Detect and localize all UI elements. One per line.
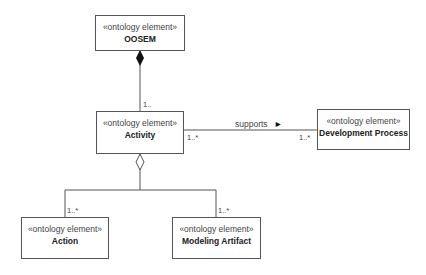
stereotype-label: «ontology element»: [96, 22, 184, 33]
modeling-artifact-element[interactable]: «ontology element» Modeling Artifact: [172, 217, 261, 259]
oosem-element[interactable]: «ontology element» OOSEM: [95, 15, 185, 51]
stereotype-label: «ontology element»: [318, 116, 409, 127]
development-process-element[interactable]: «ontology element» Development Process: [317, 109, 410, 150]
element-name: OOSEM: [96, 33, 184, 45]
supports-target-multiplicity: 1..*: [299, 133, 310, 142]
element-name: Action: [22, 235, 108, 247]
artifact-multiplicity: 1..*: [218, 206, 229, 215]
stereotype-label: «ontology element»: [97, 118, 183, 129]
stereotype-label: «ontology element»: [173, 224, 260, 235]
activity-element[interactable]: «ontology element» Activity: [96, 111, 184, 154]
element-name: Development Process: [318, 127, 409, 139]
supports-source-multiplicity: 1..*: [187, 133, 198, 142]
association-name: supports: [235, 119, 268, 129]
aggregation-diamond-icon: [136, 154, 144, 170]
supports-label: supports ►: [235, 119, 282, 129]
stereotype-label: «ontology element»: [22, 224, 108, 235]
composition-multiplicity: 1..: [143, 100, 151, 109]
action-multiplicity: 1..*: [67, 206, 78, 215]
action-element[interactable]: «ontology element» Action: [21, 217, 109, 259]
element-name: Modeling Artifact: [173, 235, 260, 247]
element-name: Activity: [97, 129, 183, 141]
direction-arrow-icon: ►: [274, 119, 282, 129]
composition-diamond-icon: [136, 50, 144, 66]
